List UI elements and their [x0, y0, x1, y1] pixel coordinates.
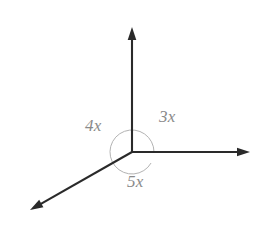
right-ray — [132, 148, 250, 157]
up-arrow-icon — [128, 27, 137, 40]
angle-label-bottom: 5x — [127, 173, 143, 190]
angle-label-upper-left: 4x — [85, 117, 101, 134]
angle-diagram: 3x 4x 5x — [0, 0, 267, 232]
lower-left-ray — [30, 152, 132, 210]
up-ray — [128, 27, 137, 152]
lower-left-arrow-icon — [30, 200, 43, 210]
right-arrow-icon — [237, 148, 250, 157]
lower-left-ray-line — [40, 152, 132, 205]
diagram-canvas — [0, 0, 267, 232]
angle-label-upper-right: 3x — [159, 108, 175, 125]
